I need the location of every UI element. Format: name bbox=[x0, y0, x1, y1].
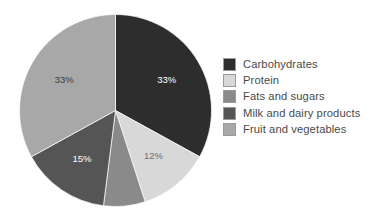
legend-swatch-icon bbox=[223, 123, 236, 136]
legend-swatch-icon bbox=[223, 90, 236, 103]
pie-chart-graphic: 33%12%15%33% bbox=[0, 0, 232, 215]
legend-item-label: Fruit and vegetables bbox=[243, 123, 346, 136]
legend-swatch-icon bbox=[223, 107, 236, 120]
chart-legend: CarbohydratesProteinFats and sugarsMilk … bbox=[223, 57, 360, 137]
pie-chart-figure: 33%12%15%33% CarbohydratesProteinFats an… bbox=[0, 0, 385, 215]
legend-item-label: Protein bbox=[243, 74, 279, 87]
legend-item: Milk and dairy products bbox=[223, 106, 360, 120]
pie-slice-value-label: 33% bbox=[157, 74, 177, 85]
pie-slice-value-label: 15% bbox=[72, 153, 92, 164]
legend-swatch-icon bbox=[223, 58, 236, 71]
legend-swatch-icon bbox=[223, 74, 236, 87]
legend-item-label: Fats and sugars bbox=[243, 90, 325, 103]
legend-item: Protein bbox=[223, 73, 360, 87]
legend-item-label: Milk and dairy products bbox=[243, 107, 360, 120]
pie-slices bbox=[20, 15, 212, 207]
legend-item: Carbohydrates bbox=[223, 57, 360, 71]
legend-item-label: Carbohydrates bbox=[243, 58, 318, 71]
legend-item: Fats and sugars bbox=[223, 90, 360, 104]
pie-svg: 33%12%15%33% bbox=[0, 0, 232, 215]
legend-item: Fruit and vegetables bbox=[223, 123, 360, 137]
pie-slice-value-label: 12% bbox=[144, 150, 164, 161]
pie-slice-value-label: 33% bbox=[55, 74, 75, 85]
